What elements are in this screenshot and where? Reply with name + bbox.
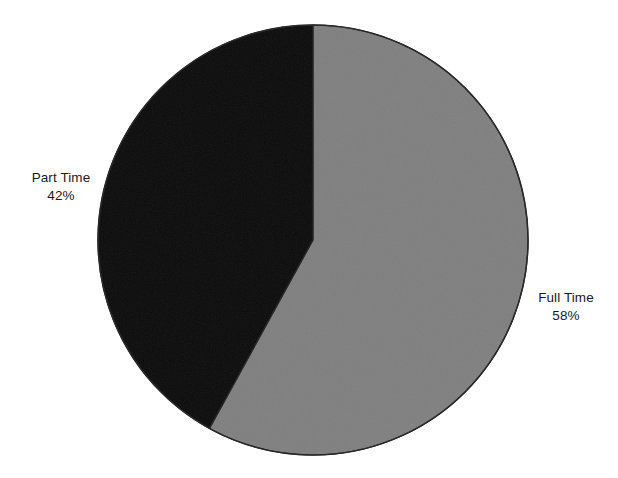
pie-label-full-time: Full Time 58% xyxy=(505,289,618,325)
pie-chart-svg xyxy=(0,0,618,478)
pie-label-part-time-value: 42% xyxy=(0,187,122,205)
pie-label-part-time: Part Time 42% xyxy=(0,169,122,205)
pie-label-full-time-name: Full Time xyxy=(505,289,618,307)
pie-grain-texture xyxy=(0,0,618,478)
pie-chart-figure: Part Time 42% Full Time 58% xyxy=(0,0,618,478)
pie-label-part-time-name: Part Time xyxy=(0,169,122,187)
pie-label-full-time-value: 58% xyxy=(505,307,618,325)
